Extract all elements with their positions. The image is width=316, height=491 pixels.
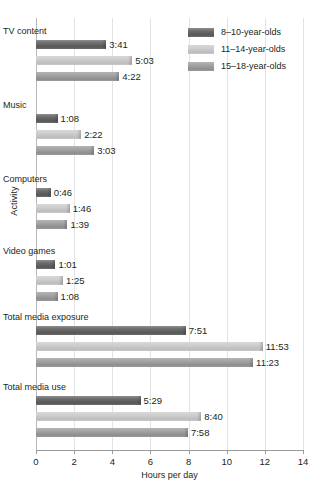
- bar-row: 11:53: [36, 342, 303, 351]
- bar[interactable]: [36, 72, 119, 81]
- bar-end-shading: [182, 326, 186, 335]
- bar-end-shading: [51, 260, 55, 269]
- bar[interactable]: [36, 188, 51, 197]
- bar-value-label: 7:58: [191, 428, 210, 437]
- bar[interactable]: [36, 326, 186, 335]
- bar-row: 7:51: [36, 326, 303, 335]
- bar[interactable]: [36, 412, 201, 421]
- bar-row: 8:40: [36, 412, 303, 421]
- x-tick-label: 2: [71, 456, 76, 467]
- category-label: Computers: [3, 174, 47, 185]
- legend-swatch: [188, 28, 214, 37]
- bar[interactable]: [36, 292, 58, 301]
- bar-value-label: 8:40: [204, 412, 223, 421]
- bar[interactable]: [36, 130, 81, 139]
- tick-mark-6: [150, 450, 151, 454]
- tick-mark-12: [265, 450, 266, 454]
- bar-row: 2:22: [36, 130, 303, 139]
- bar[interactable]: [36, 204, 70, 213]
- bar-value-label: 5:03: [135, 56, 154, 65]
- bar-value-label: 1:25: [66, 276, 85, 285]
- bar[interactable]: [36, 342, 263, 351]
- bar[interactable]: [36, 56, 132, 65]
- x-axis-line: [36, 450, 303, 451]
- bar-end-shading: [249, 358, 253, 367]
- bar-row: 1:08: [36, 114, 303, 123]
- bar-value-label: 4:22: [122, 72, 141, 81]
- category-label: Music: [3, 100, 27, 111]
- x-axis-title: Hours per day: [36, 470, 303, 480]
- bar-row: 3:41: [36, 40, 303, 49]
- gridline-2: [74, 18, 75, 450]
- bar-row: 1:46: [36, 204, 303, 213]
- bar-row: 1:08: [36, 292, 303, 301]
- category-label: Total media use: [3, 382, 66, 393]
- bar[interactable]: [36, 358, 253, 367]
- bar-end-shading: [77, 130, 81, 139]
- bar-row: 3:03: [36, 146, 303, 155]
- bar-end-shading: [259, 342, 263, 351]
- x-tick-label: 10: [221, 456, 232, 467]
- gridline-6: [150, 18, 151, 450]
- bar-end-shading: [137, 396, 141, 405]
- media-use-bar-chart: Activity Hours per day 02468101214 8–10-…: [0, 0, 316, 491]
- bar-end-shading: [54, 292, 58, 301]
- bar[interactable]: [36, 428, 188, 437]
- bar-end-shading: [63, 220, 67, 229]
- tick-mark-2: [74, 450, 75, 454]
- bar[interactable]: [36, 40, 106, 49]
- bar-value-label: 1:39: [70, 220, 89, 229]
- category-label: Video games: [3, 246, 55, 257]
- gridline-14: [303, 18, 304, 450]
- gridline-12: [265, 18, 266, 450]
- x-tick-label: 4: [110, 456, 115, 467]
- bar-row: 11:23: [36, 358, 303, 367]
- bar-row: 7:58: [36, 428, 303, 437]
- bar-value-label: 1:08: [61, 114, 80, 123]
- gridline-8: [189, 18, 190, 450]
- x-tick-label: 14: [298, 456, 309, 467]
- bar-value-label: 2:22: [84, 130, 103, 139]
- bar-end-shading: [102, 40, 106, 49]
- gridline-4: [112, 18, 113, 450]
- bar-row: 5:03: [36, 56, 303, 65]
- bar[interactable]: [36, 396, 141, 405]
- bar-end-shading: [184, 428, 188, 437]
- plot-area: [36, 18, 303, 450]
- bar[interactable]: [36, 114, 58, 123]
- bar-row: 1:39: [36, 220, 303, 229]
- x-tick-label: 0: [33, 456, 38, 467]
- bar-value-label: 7:51: [189, 326, 208, 335]
- bar[interactable]: [36, 220, 67, 229]
- bar[interactable]: [36, 276, 63, 285]
- x-tick-label: 8: [186, 456, 191, 467]
- bar-row: 1:01: [36, 260, 303, 269]
- bar-value-label: 1:46: [73, 204, 92, 213]
- tick-mark-8: [189, 450, 190, 454]
- bar-value-label: 5:29: [144, 396, 163, 405]
- bar-end-shading: [90, 146, 94, 155]
- bar-value-label: 11:53: [266, 342, 289, 351]
- bar-row: 1:25: [36, 276, 303, 285]
- legend-label: 8–10-year-olds: [221, 26, 281, 38]
- tick-mark-14: [303, 450, 304, 454]
- tick-mark-10: [227, 450, 228, 454]
- bar[interactable]: [36, 146, 94, 155]
- bar-end-shading: [59, 276, 63, 285]
- bar-end-shading: [128, 56, 132, 65]
- bar-end-shading: [47, 188, 51, 197]
- bar-value-label: 3:03: [97, 146, 116, 155]
- tick-mark-0: [36, 450, 37, 454]
- y-axis-title: Activity: [9, 161, 19, 241]
- gridline-10: [227, 18, 228, 450]
- bar[interactable]: [36, 260, 55, 269]
- bar-end-shading: [54, 114, 58, 123]
- bar-row: 4:22: [36, 72, 303, 81]
- bar-row: 5:29: [36, 396, 303, 405]
- bar-end-shading: [115, 72, 119, 81]
- bar-value-label: 1:01: [58, 260, 77, 269]
- category-label: Total media exposure: [3, 312, 89, 323]
- x-tick-label: 6: [148, 456, 153, 467]
- bar-value-label: 0:46: [54, 188, 73, 197]
- x-tick-label: 12: [260, 456, 271, 467]
